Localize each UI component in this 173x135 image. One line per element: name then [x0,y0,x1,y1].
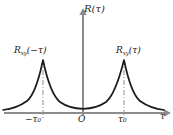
x-axis-label: τ [160,112,165,121]
peak-right-argument: (τ) [129,45,141,55]
peak-left-argument: (−τ) [27,45,47,55]
x-tick-label-pos-tau0: τ₀ [118,115,127,124]
x-axis-arrowhead [164,109,171,116]
x-tick-label-neg-tau0: −τ₀ [25,115,41,124]
peak-left-label: Rxy(−τ) [14,46,46,56]
peak-left-base: R [14,45,21,55]
x-tick-label-origin: O [78,115,85,124]
peak-right-base: R [116,45,123,55]
y-axis-label: R(τ) [84,4,105,14]
peak-right-label: Rxy(τ) [116,46,141,56]
correlation-function-figure: R(τ) Rxy(−τ) Rxy(τ) −τ₀ O τ₀ τ [0,0,173,135]
